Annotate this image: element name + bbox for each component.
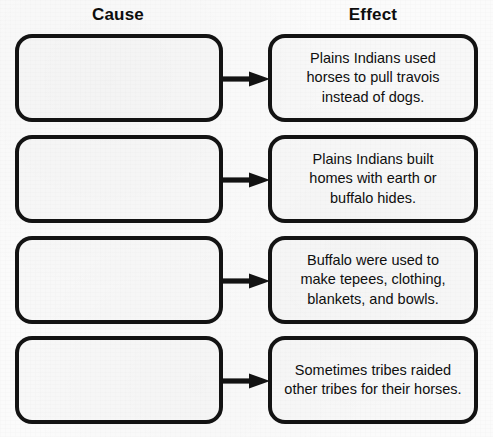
arrow-right-icon bbox=[222, 172, 270, 188]
effect-box[interactable]: Sometimes tribes raided other tribes for… bbox=[268, 336, 478, 424]
cause-effect-worksheet: Cause Effect Plains Indians used horses … bbox=[0, 0, 493, 437]
effect-box[interactable]: Buffalo were used to make tepees, clothi… bbox=[268, 236, 478, 324]
effect-box-text: Sometimes tribes raided other tribes for… bbox=[275, 361, 470, 400]
cause-effect-row: Buffalo were used to make tepees, clothi… bbox=[0, 236, 493, 327]
cause-effect-row: Plains Indians built homes with earth or… bbox=[0, 135, 493, 226]
effect-box-text: Plains Indians used horses to pull travo… bbox=[298, 49, 449, 107]
cause-effect-row: Sometimes tribes raided other tribes for… bbox=[0, 336, 493, 427]
cause-effect-row: Plains Indians used horses to pull travo… bbox=[0, 34, 493, 125]
effect-box[interactable]: Plains Indians built homes with earth or… bbox=[268, 135, 478, 223]
cause-box[interactable] bbox=[15, 236, 223, 324]
effect-box-text: Buffalo were used to make tepees, clothi… bbox=[291, 251, 454, 309]
effect-box-text: Plains Indians built homes with earth or… bbox=[300, 150, 445, 208]
cause-box[interactable] bbox=[15, 135, 223, 223]
cause-box[interactable] bbox=[15, 336, 223, 424]
effect-box[interactable]: Plains Indians used horses to pull travo… bbox=[268, 34, 478, 122]
arrow-right-icon bbox=[222, 273, 270, 289]
cause-box[interactable] bbox=[15, 34, 223, 122]
arrow-right-icon bbox=[222, 71, 270, 87]
arrow-right-icon bbox=[222, 373, 270, 389]
column-heading-effect: Effect bbox=[313, 5, 433, 25]
column-heading-cause: Cause bbox=[58, 5, 178, 25]
